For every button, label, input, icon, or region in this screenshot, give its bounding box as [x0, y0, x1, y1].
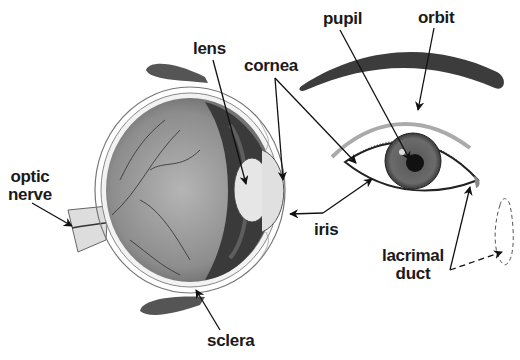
diagram-drawing: [0, 0, 520, 360]
label-lens: lens: [193, 40, 226, 58]
label-pupil: pupil: [323, 10, 362, 28]
upper-eyelid-shape: [146, 64, 208, 83]
label-iris: iris: [314, 221, 338, 239]
eye-anatomy-diagram: lens cornea pupil orbit optic nerve iris…: [0, 0, 520, 360]
label-orbit: orbit: [418, 9, 454, 27]
label-lacrimal-duct-line2: duct: [382, 265, 444, 283]
lower-eyelid-shape: [140, 297, 205, 315]
label-optic-nerve-line2: nerve: [8, 186, 52, 204]
label-optic-nerve-line1: optic: [8, 168, 52, 186]
orbit-arc: [299, 52, 504, 91]
label-lacrimal-duct-line1: lacrimal: [382, 247, 444, 265]
lacrimal-duct-outline: [495, 199, 513, 265]
label-optic-nerve: optic nerve: [8, 168, 52, 204]
label-sclera: sclera: [207, 332, 254, 350]
eyeball-cross-section: [95, 87, 285, 293]
label-lacrimal-duct: lacrimal duct: [382, 247, 444, 283]
front-eye-view: [332, 124, 480, 191]
label-cornea: cornea: [244, 57, 298, 75]
